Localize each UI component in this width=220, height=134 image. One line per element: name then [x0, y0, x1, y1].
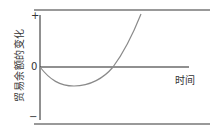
plus-tick: + [31, 11, 39, 21]
j-curve-line [40, 14, 141, 86]
j-curve-chart: + 0 − 贸易余额的变化 时间 [0, 0, 220, 134]
minus-tick: − [29, 112, 37, 122]
zero-tick: 0 [31, 62, 37, 72]
x-axis-label: 时间 [175, 72, 195, 87]
y-axis-label: 贸易余额的变化 [11, 28, 26, 102]
